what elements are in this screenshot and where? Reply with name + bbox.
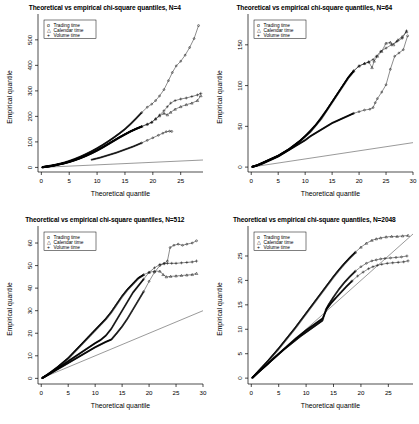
data-point-plus (384, 47, 387, 50)
legend-label-volume-time: Volume time (54, 245, 81, 250)
series-points-trading-time (42, 25, 200, 168)
x-tick-label: 20 (355, 177, 362, 184)
legend-symbol-volume-time: + (257, 244, 260, 250)
series-line-volume-time (252, 31, 406, 167)
legend-label-volume-time: Volume time (263, 245, 290, 250)
series-points-trading-time (251, 35, 408, 167)
series-line-calendar-time (252, 32, 406, 167)
series-line-calendar-time (42, 271, 196, 378)
series-line-trading-time (42, 26, 198, 168)
y-tick-label: 0 (236, 376, 243, 380)
y-tick-label: 60 (27, 239, 34, 246)
data-point-plus (406, 259, 409, 262)
x-tick-label: 10 (301, 177, 308, 184)
data-point-plus (175, 262, 178, 265)
legend-symbol-volume-time: + (47, 244, 50, 250)
legend-label-volume-time: Volume time (263, 33, 290, 38)
x-tick-label: 15 (328, 177, 335, 184)
legend-label-calendar-time: Calendar time (263, 28, 293, 33)
y-tick-label: 300 (27, 85, 34, 96)
legend-label-trading-time: Trading time (263, 235, 290, 240)
y-tick-label: 100 (236, 80, 243, 91)
x-tick-label: 15 (330, 389, 337, 396)
y-tick-label: 0 (27, 165, 34, 169)
panel-n64-canvas: 051015202530050100150Theoretical quantil… (210, 0, 419, 212)
x-tick-label: 0 (249, 389, 253, 396)
data-point-plus (195, 259, 198, 262)
series-points-calendar-time (42, 270, 198, 379)
x-tick-label: 15 (122, 177, 129, 184)
data-point-plus (166, 262, 169, 265)
x-tick-label: 0 (249, 177, 253, 184)
data-point-plus (367, 267, 370, 270)
series-group (251, 234, 413, 379)
series-points-trading-time (251, 255, 407, 378)
series-group (251, 29, 413, 167)
series-points-trading-time (42, 240, 198, 379)
x-tick-label: 20 (357, 389, 364, 396)
data-point-circle (196, 240, 198, 242)
x-tick-label: 0 (40, 389, 44, 396)
panel-n4: Theoretical vs empirical chi-square quan… (0, 0, 210, 212)
qq-plot-figure: Theoretical vs empirical chi-square quan… (0, 0, 419, 424)
panel-n64: Theoretical vs empirical chi-square quan… (210, 0, 419, 212)
legend: oTrading time△Calendar time+Volume time (44, 232, 96, 251)
data-point-plus (391, 261, 394, 264)
data-point-plus (196, 93, 199, 96)
x-tick-label: 0 (40, 177, 44, 184)
x-tick-label: 5 (276, 177, 280, 184)
y-tick-label: 150 (236, 39, 243, 50)
y-tick-label: 5 (236, 351, 243, 355)
legend-label-calendar-time: Calendar time (54, 28, 84, 33)
series-line-trading-time (252, 256, 407, 378)
y-tick-label: 15 (236, 301, 243, 308)
series-group (41, 25, 203, 169)
x-tick-label: 30 (409, 177, 416, 184)
legend: oTrading time△Calendar time+Volume time (254, 20, 306, 39)
data-point-plus (396, 261, 399, 264)
y-tick-label: 0 (27, 376, 34, 380)
x-tick-label: 25 (384, 389, 391, 396)
data-point-plus (380, 263, 383, 266)
plot-area: 0510152025300102030405060Theoretical qua… (6, 226, 207, 410)
reference-line (251, 143, 413, 167)
legend-label-trading-time: Trading time (54, 23, 81, 28)
y-tick-label: 400 (27, 60, 34, 71)
y-tick-label: 25 (236, 252, 243, 259)
data-point-plus (185, 97, 188, 100)
x-tick-label: 10 (94, 177, 101, 184)
data-point-plus (371, 265, 374, 268)
y-tick-label: 10 (236, 325, 243, 332)
data-point-plus (191, 260, 194, 263)
data-point-plus (361, 271, 364, 274)
panel-title: Theoretical vs empirical chi-square quan… (210, 4, 419, 12)
x-tick-label: 30 (200, 389, 207, 396)
panel-n2048-canvas: 05101520250510152025Theoretical quantile… (210, 212, 419, 424)
series-points-volume-time (251, 259, 409, 378)
legend-label-trading-time: Trading time (54, 235, 81, 240)
y-tick-label: 100 (27, 136, 34, 147)
series-line-trading-time (42, 241, 196, 378)
series-line-trading-time-lower-branch (92, 131, 172, 160)
panel-n4-canvas: 05101520250100200300400500Theoretical qu… (0, 0, 210, 212)
x-tick-label: 10 (302, 389, 309, 396)
series-line-volume-time (42, 93, 200, 167)
legend: oTrading time△Calendar time+Volume time (44, 20, 96, 39)
data-point-plus (185, 261, 188, 264)
legend-label-volume-time: Volume time (54, 33, 81, 38)
legend-symbol-volume-time: + (47, 32, 50, 38)
y-tick-label: 30 (27, 307, 34, 314)
x-axis-title: Theoretical quantile (300, 190, 360, 198)
y-tick-label: 10 (27, 352, 34, 359)
legend-label-calendar-time: Calendar time (54, 240, 84, 245)
x-tick-label: 10 (92, 389, 99, 396)
x-tick-label: 5 (67, 177, 71, 184)
y-tick-label: 50 (236, 122, 243, 129)
x-tick-label: 5 (276, 389, 280, 396)
x-tick-label: 25 (382, 177, 389, 184)
panel-title: Theoretical vs empirical chi-square quan… (0, 4, 210, 12)
y-axis-title: Empirical quantile (216, 70, 224, 124)
x-tick-label: 15 (119, 389, 126, 396)
x-axis-title: Theoretical quantile (91, 190, 151, 198)
x-axis-title: Theoretical quantile (300, 402, 360, 410)
